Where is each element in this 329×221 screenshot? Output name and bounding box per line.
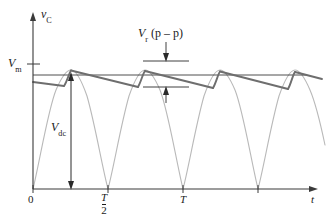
x-axis-label: t	[311, 194, 314, 205]
x-tick-label-half-T-numerator: T	[101, 192, 107, 204]
y-axis-arrowhead	[30, 12, 36, 21]
ripple-discharge-4	[295, 72, 322, 79]
ripple-rise-2	[138, 71, 145, 87]
figure-capacitor-filter-waveform: vC Vm Vdc Vr(p – p) 0 T2 T t	[0, 0, 329, 221]
vdc-label: Vdc	[51, 121, 66, 137]
ripple-discharge-1	[71, 71, 138, 88]
vdc-dimension-arrow	[68, 72, 74, 190]
vm-label-subscript: m	[15, 65, 21, 74]
vr-label-subscript: r	[145, 35, 148, 44]
sine-hump-4	[258, 70, 325, 189]
vdc-label-subscript: dc	[58, 129, 66, 138]
x-tick-label-T: T	[180, 194, 186, 205]
x-tick-label-half-T: T2	[101, 192, 107, 216]
y-axis-label: vC	[41, 8, 52, 24]
vr-label-suffix: (p – p)	[151, 26, 183, 40]
sine-hump-3	[183, 70, 258, 189]
sine-hump-2	[108, 70, 183, 189]
vr-pp-label: Vr(p – p)	[138, 27, 183, 43]
x-axis-arrowhead	[309, 186, 318, 192]
x-tick-label-half-T-denominator: 2	[101, 205, 107, 217]
vm-label: Vm	[8, 57, 22, 73]
origin-label: 0	[28, 194, 34, 205]
y-axis-label-subscript: C	[46, 16, 51, 25]
